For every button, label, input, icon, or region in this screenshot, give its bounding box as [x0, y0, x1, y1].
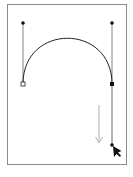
end-anchor[interactable]: [110, 82, 114, 86]
start-anchor[interactable]: [21, 82, 25, 86]
left-handle-point[interactable]: [21, 21, 25, 25]
right-handle-point[interactable]: [110, 21, 114, 25]
bezier-diagram: [0, 0, 133, 177]
